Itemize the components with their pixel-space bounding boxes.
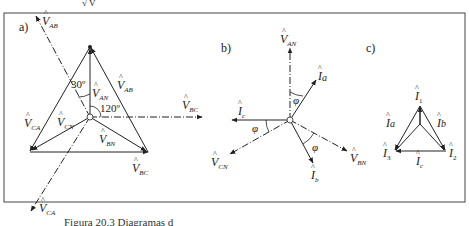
svg-text:^: ^ bbox=[59, 110, 63, 119]
panel-c: c) I1 ^ Ia ^ Ib ^ I3 ^ I2 ^ Ic ^ bbox=[366, 41, 457, 170]
svg-text:^: ^ bbox=[44, 9, 48, 18]
label-v-bn: VBN ^ bbox=[99, 127, 116, 148]
label-i-c-b: Ic ^ bbox=[237, 99, 246, 120]
label-i-b-b: Ib ^ bbox=[310, 163, 319, 184]
angle-30-arc bbox=[78, 94, 90, 97]
label-v-ca-side: VCA ^ bbox=[24, 111, 41, 132]
label-v-bc-dashed: VBC ^ bbox=[182, 93, 199, 114]
label-v-ab-side: VAB ^ bbox=[117, 73, 134, 94]
label-i-1: I1 ^ bbox=[414, 84, 423, 105]
top-fragment-text: √ V bbox=[82, 0, 96, 8]
label-v-bc-side: VBC ^ bbox=[132, 156, 149, 177]
svg-text:^: ^ bbox=[134, 156, 138, 165]
label-i-a-b: Ia ^ bbox=[317, 64, 327, 83]
label-v-an-b: VAN ^ bbox=[280, 27, 297, 48]
label-i-3: I3 ^ bbox=[382, 141, 391, 162]
svg-text:^: ^ bbox=[282, 27, 286, 36]
label-v-bn-b: VBN ^ bbox=[350, 146, 367, 167]
v-cn-vector-b bbox=[230, 120, 290, 154]
svg-text:^: ^ bbox=[383, 141, 387, 150]
angle-30-label: 30º bbox=[71, 78, 86, 90]
angle-120-label: 120º bbox=[100, 102, 121, 114]
neutral-node bbox=[87, 114, 93, 120]
svg-text:^: ^ bbox=[352, 146, 356, 155]
svg-text:^: ^ bbox=[318, 64, 322, 73]
svg-text:^: ^ bbox=[184, 93, 188, 102]
label-v-cn-b: VCN ^ bbox=[211, 150, 228, 171]
center-node-b bbox=[287, 117, 293, 123]
label-i-c-c: Ic ^ bbox=[415, 149, 424, 170]
label-i-b-c: Ib ^ bbox=[436, 111, 446, 130]
vertex-a bbox=[88, 45, 92, 49]
svg-text:^: ^ bbox=[437, 111, 441, 120]
svg-text:^: ^ bbox=[119, 73, 123, 82]
svg-text:^: ^ bbox=[238, 99, 242, 108]
label-i-a-c: Ia ^ bbox=[385, 111, 395, 130]
panel-a: a) 30º 120º VAB ^ VAB ^ VAN ^ bbox=[19, 9, 202, 217]
panel-b: b) φ φ φ VAN ^ Ia ^ Ic ^ VCN ^ bbox=[211, 27, 367, 184]
svg-text:^: ^ bbox=[101, 127, 105, 136]
label-v-ab-dashed: VAB ^ bbox=[42, 9, 59, 30]
svg-text:^: ^ bbox=[415, 84, 419, 93]
phi-label-a: φ bbox=[293, 94, 299, 106]
panel-b-label: b) bbox=[221, 41, 231, 55]
svg-text:^: ^ bbox=[386, 111, 390, 120]
svg-text:^: ^ bbox=[41, 196, 45, 205]
svg-text:^: ^ bbox=[416, 149, 420, 158]
svg-text:^: ^ bbox=[26, 111, 30, 120]
panel-c-label: c) bbox=[366, 41, 375, 55]
svg-text:^: ^ bbox=[94, 81, 98, 90]
side-ca-vector bbox=[30, 47, 90, 151]
svg-text:^: ^ bbox=[449, 141, 453, 150]
phi-label-b: φ bbox=[312, 141, 318, 153]
label-v-ca-dashed: VCA ^ bbox=[39, 196, 56, 217]
label-v-cn: VCN ^ bbox=[57, 110, 74, 131]
svg-text:^: ^ bbox=[213, 150, 217, 159]
phasor-diagram-figure: √ V a) 30º 120º VAB ^ VAB ^ bbox=[0, 0, 469, 226]
figure-caption: Figura 20.3 Diagramas d bbox=[64, 216, 174, 226]
v-ab-dashed-vector bbox=[36, 16, 90, 117]
label-i-2: I2 ^ bbox=[448, 141, 457, 162]
phi-label-c: φ bbox=[252, 122, 258, 134]
svg-text:^: ^ bbox=[311, 163, 315, 172]
panel-a-label: a) bbox=[19, 20, 28, 34]
figure-frame bbox=[4, 13, 465, 202]
phi-arc-c bbox=[266, 120, 269, 132]
label-v-an: VAN ^ bbox=[92, 81, 109, 102]
